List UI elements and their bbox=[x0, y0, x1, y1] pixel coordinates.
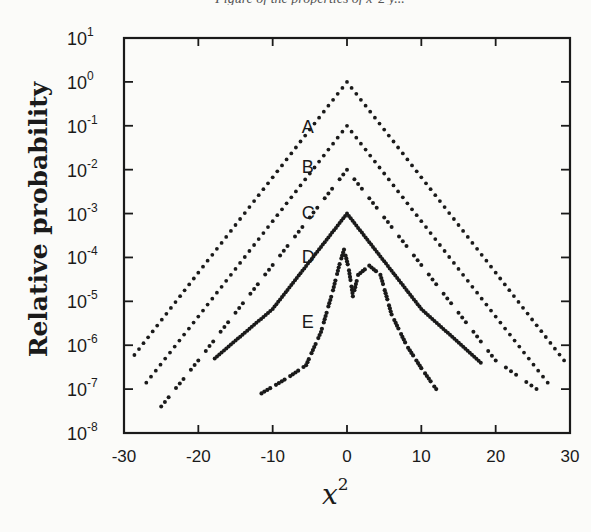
x-axis-label: x2 bbox=[322, 478, 349, 511]
data-point bbox=[165, 312, 169, 316]
data-point bbox=[535, 387, 539, 391]
data-point bbox=[210, 297, 214, 301]
data-point bbox=[410, 164, 414, 168]
data-point bbox=[268, 386, 272, 390]
data-point bbox=[336, 92, 340, 96]
data-point bbox=[373, 116, 377, 120]
data-point bbox=[275, 169, 279, 173]
data-point bbox=[466, 235, 470, 239]
data-point bbox=[457, 311, 461, 315]
data-point bbox=[529, 384, 533, 388]
data-point bbox=[433, 237, 437, 241]
data-point bbox=[159, 363, 163, 367]
data-point bbox=[558, 353, 562, 357]
data-point bbox=[146, 335, 150, 339]
data-point bbox=[262, 231, 266, 235]
data-point bbox=[300, 225, 304, 229]
data-point bbox=[350, 130, 354, 134]
data-point bbox=[243, 211, 247, 215]
data-point bbox=[252, 287, 256, 291]
data-point bbox=[159, 405, 163, 409]
data-point bbox=[387, 134, 391, 138]
data-point bbox=[282, 249, 286, 253]
data-point bbox=[350, 86, 354, 90]
data-point bbox=[403, 340, 407, 344]
data-point bbox=[396, 326, 400, 330]
data-point bbox=[392, 140, 396, 144]
data-point bbox=[390, 225, 394, 229]
data-point bbox=[360, 187, 364, 191]
data-point bbox=[438, 243, 442, 247]
data-point bbox=[452, 261, 456, 265]
y-tick-label: 10-5 bbox=[67, 288, 98, 312]
data-point bbox=[546, 381, 550, 385]
data-point bbox=[471, 241, 475, 245]
y-tick-label: 10-4 bbox=[67, 244, 98, 268]
data-point bbox=[485, 259, 489, 263]
data-point bbox=[348, 278, 352, 282]
data-point bbox=[535, 323, 539, 327]
data-point bbox=[329, 295, 333, 299]
data-point bbox=[489, 309, 493, 313]
data-point bbox=[419, 219, 423, 223]
data-point bbox=[215, 291, 219, 295]
data-point bbox=[460, 316, 464, 320]
data-point bbox=[201, 265, 205, 269]
data-point bbox=[415, 169, 419, 173]
data-point bbox=[354, 92, 358, 96]
x-tick-label: -20 bbox=[186, 447, 211, 466]
data-point bbox=[382, 172, 386, 176]
x-tick-label: -30 bbox=[112, 447, 137, 466]
data-point bbox=[475, 335, 479, 339]
data-point bbox=[275, 213, 279, 217]
data-point bbox=[208, 344, 212, 348]
data-point bbox=[169, 306, 173, 310]
data-point bbox=[192, 321, 196, 325]
series-A bbox=[133, 80, 566, 362]
data-point bbox=[517, 345, 521, 349]
data-point bbox=[280, 207, 284, 211]
data-point bbox=[445, 297, 449, 301]
data-point bbox=[173, 345, 177, 349]
data-point bbox=[503, 327, 507, 331]
data-point bbox=[494, 358, 498, 362]
data-point bbox=[485, 303, 489, 307]
data-point bbox=[149, 375, 153, 379]
x-tick-label: 20 bbox=[486, 447, 505, 466]
data-point bbox=[192, 277, 196, 281]
data-point bbox=[219, 330, 223, 334]
data-point bbox=[396, 146, 400, 150]
data-point bbox=[466, 279, 470, 283]
data-point bbox=[331, 142, 335, 146]
data-point bbox=[189, 368, 193, 372]
data-point bbox=[498, 277, 502, 281]
data-point bbox=[396, 190, 400, 194]
data-point bbox=[406, 201, 410, 205]
data-point bbox=[342, 248, 346, 252]
data-point bbox=[257, 237, 261, 241]
data-point bbox=[364, 104, 368, 108]
data-point bbox=[278, 254, 282, 258]
data-point bbox=[307, 357, 311, 361]
x-axis-label-base: x bbox=[322, 478, 338, 511]
y-tick-label: 10-1 bbox=[67, 113, 98, 137]
data-point bbox=[434, 282, 438, 286]
data-point bbox=[415, 213, 419, 217]
data-point bbox=[206, 303, 210, 307]
y-tick-label: 10-3 bbox=[67, 201, 98, 225]
data-point bbox=[289, 152, 293, 156]
data-point bbox=[512, 294, 516, 298]
data-point bbox=[429, 187, 433, 191]
data-point bbox=[397, 235, 401, 239]
data-point bbox=[494, 315, 498, 319]
data-point bbox=[238, 217, 242, 221]
data-point bbox=[142, 341, 146, 345]
data-point bbox=[363, 267, 367, 271]
data-point bbox=[427, 273, 431, 277]
data-point bbox=[424, 181, 428, 185]
data-point bbox=[405, 244, 409, 248]
data-point bbox=[346, 262, 350, 266]
data-point bbox=[390, 312, 394, 316]
data-point bbox=[160, 318, 164, 322]
y-tick-label: 10-7 bbox=[67, 376, 98, 400]
